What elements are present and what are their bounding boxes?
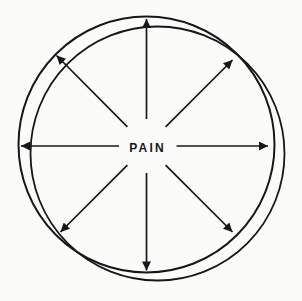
- pain-radiation-figure: PAIN: [0, 0, 302, 301]
- center-label: PAIN: [129, 141, 166, 155]
- pain-diagram-canvas: PAIN: [0, 0, 302, 301]
